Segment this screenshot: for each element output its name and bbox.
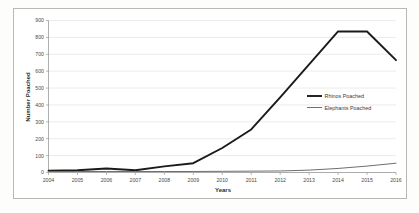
x-tick-label: 2011 — [246, 177, 257, 183]
series-line-elephants-poached — [49, 163, 397, 171]
x-tick-label: 2012 — [274, 177, 286, 183]
y-tick-label: 0 — [41, 169, 44, 175]
data-series — [49, 31, 397, 171]
x-tick-label: 2010 — [216, 177, 228, 183]
y-tick-label: 200 — [35, 136, 44, 142]
x-axis-title: Years — [215, 187, 232, 193]
x-axis — [49, 173, 397, 176]
x-tick-label: 2016 — [390, 177, 402, 183]
y-tick-label: 800 — [35, 34, 44, 40]
x-tick-label: 2013 — [303, 177, 315, 183]
chart-container: 0100200300400500600700800900 20042005200… — [0, 0, 419, 213]
x-tick-label: 2014 — [332, 177, 344, 183]
y-tick-label: 400 — [35, 102, 44, 108]
x-tick-label: 2006 — [101, 177, 113, 183]
y-tick-labels: 0100200300400500600700800900 — [35, 17, 44, 175]
series-line-rhinos-poached — [49, 31, 397, 170]
legend-label: Rhinos Poached — [325, 93, 365, 99]
legend-label: Elephants Poached — [325, 105, 372, 111]
legend: Rhinos PoachedElephants Poached — [307, 93, 371, 111]
x-tick-label: 2015 — [361, 177, 373, 183]
y-tick-label: 600 — [35, 68, 44, 74]
y-tick-label: 500 — [35, 85, 44, 91]
x-tick-label: 2009 — [188, 177, 200, 183]
x-tick-label: 2008 — [159, 177, 171, 183]
y-tick-label: 100 — [35, 153, 44, 159]
y-axis — [46, 21, 49, 173]
x-tick-label: 2005 — [72, 177, 84, 183]
x-tick-label: 2004 — [43, 177, 55, 183]
line-chart: 0100200300400500600700800900 20042005200… — [0, 0, 419, 213]
y-tick-label: 700 — [35, 51, 44, 57]
y-tick-label: 900 — [35, 17, 44, 23]
x-tick-label: 2007 — [130, 177, 142, 183]
y-axis-title: Number Poached — [25, 72, 31, 122]
y-tick-label: 300 — [35, 119, 44, 125]
x-tick-labels: 2004200520062007200820092010201120122013… — [43, 177, 402, 183]
